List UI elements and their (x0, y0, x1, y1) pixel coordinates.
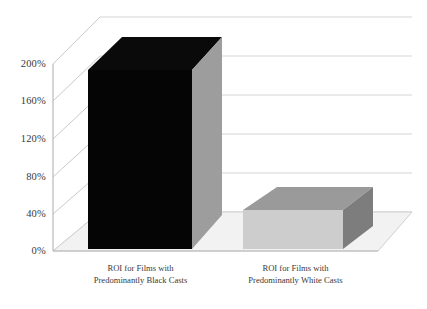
y-tick-label-160: 160% (2, 95, 46, 106)
bar-black-casts-front (88, 70, 192, 249)
y-tick-label-80: 80% (2, 171, 46, 182)
chart-container: 200% 160% 120% 80% 40% 0% ROI for Films … (0, 0, 427, 309)
y-tick-label-0: 0% (2, 245, 46, 256)
y-tick-label-120: 120% (2, 133, 46, 144)
bar-white-casts[interactable] (243, 187, 373, 249)
y-tick-label-40: 40% (2, 208, 46, 219)
category-label-white-casts-line1: ROI for Films with (213, 262, 378, 274)
bar-black-casts-side (192, 37, 222, 249)
category-label-black-casts: ROI for Films with Predominantly Black C… (58, 262, 223, 287)
bar-white-casts-front (243, 210, 343, 249)
category-label-white-casts: ROI for Films with Predominantly White C… (213, 262, 378, 287)
category-label-black-casts-line2: Predominantly Black Casts (58, 274, 223, 286)
depth-line-200 (53, 17, 100, 64)
bar-black-casts[interactable] (88, 37, 222, 249)
category-label-white-casts-line2: Predominantly White Casts (213, 274, 378, 286)
category-label-black-casts-line1: ROI for Films with (58, 262, 223, 274)
y-tick-label-200: 200% (2, 58, 46, 69)
